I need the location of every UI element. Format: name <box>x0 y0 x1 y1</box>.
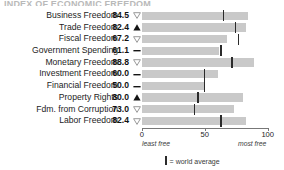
chart-rows: Business Freedom84.5Trade Freedom82.4Fis… <box>0 10 284 127</box>
score-bar <box>142 47 219 55</box>
row-plot <box>142 10 268 22</box>
row-plot <box>142 68 268 80</box>
world-average-marker <box>238 34 240 45</box>
score-bar <box>142 23 246 31</box>
row-score: 50.0 <box>107 80 129 92</box>
row-score: 73.0 <box>107 104 129 116</box>
chart-row: Property Rights80.0 <box>0 92 284 104</box>
world-average-marker <box>223 10 225 21</box>
trend-up-icon <box>133 24 141 31</box>
row-plot <box>142 80 268 92</box>
trend-down-icon <box>133 118 141 125</box>
trend-flat-icon <box>133 47 141 54</box>
row-plot <box>142 33 268 45</box>
row-trend-indicator <box>131 33 142 45</box>
score-bar <box>142 82 205 90</box>
row-trend-indicator <box>131 92 142 104</box>
chart-row: Fdm. from Corruption73.0 <box>0 104 284 116</box>
row-plot <box>142 22 268 34</box>
world-average-marker <box>235 22 237 33</box>
row-trend-indicator <box>131 10 142 22</box>
score-bar <box>142 70 218 78</box>
score-bar <box>142 105 234 113</box>
row-label: Fdm. from Corruption <box>36 104 118 116</box>
trend-flat-icon <box>133 71 141 78</box>
score-bar <box>142 35 227 43</box>
row-plot <box>142 45 268 57</box>
row-score: 82.4 <box>107 22 129 34</box>
chart-row: Financial Freedom50.0 <box>0 80 284 92</box>
score-bar <box>142 12 248 20</box>
trend-down-icon <box>133 12 141 19</box>
chart-row: Investment Freedom60.0 <box>0 68 284 80</box>
row-trend-indicator <box>131 104 142 116</box>
trend-down-icon <box>133 59 141 66</box>
axis-tick-label: 0 <box>140 131 144 139</box>
row-score: 80.0 <box>107 92 129 104</box>
chart-title-remnant: INDEX OF ECONOMIC FREEDOM <box>4 0 280 6</box>
row-score: 84.5 <box>107 10 129 22</box>
economic-freedom-chart: INDEX OF ECONOMIC FREEDOM Business Freed… <box>0 0 284 170</box>
row-plot <box>142 104 268 116</box>
world-average-marker <box>220 115 222 126</box>
row-label: Government Spending <box>32 45 118 57</box>
row-trend-indicator <box>131 115 142 127</box>
row-plot <box>142 115 268 127</box>
trend-down-icon <box>133 106 141 113</box>
row-score: 82.4 <box>107 115 129 127</box>
axis-tick-label: 100 <box>261 131 274 139</box>
score-bar <box>142 93 243 101</box>
axis-note-most-free: most free <box>238 140 266 148</box>
score-bar <box>142 58 254 66</box>
score-bar <box>142 117 246 125</box>
axis-tick-label: 50 <box>201 131 209 139</box>
row-plot <box>142 92 268 104</box>
world-average-marker <box>231 57 233 68</box>
legend-label: = world average <box>170 157 220 166</box>
row-score: 88.8 <box>107 57 129 69</box>
legend: = world average <box>165 150 220 162</box>
chart-row: Trade Freedom82.4 <box>0 22 284 34</box>
world-average-marker-icon <box>165 156 167 165</box>
chart-row: Business Freedom84.5 <box>0 10 284 22</box>
chart-row: Fiscal Freedom67.2 <box>0 33 284 45</box>
row-trend-indicator <box>131 68 142 80</box>
row-trend-indicator <box>131 57 142 69</box>
world-average-marker <box>220 45 222 56</box>
trend-down-icon <box>133 36 141 43</box>
chart-row: Government Spending61.1 <box>0 45 284 57</box>
chart-row: Labor Freedom82.4 <box>0 115 284 127</box>
row-score: 60.0 <box>107 68 129 80</box>
row-score: 61.1 <box>107 45 129 57</box>
row-plot <box>142 57 268 69</box>
world-average-marker <box>194 104 196 115</box>
row-trend-indicator <box>131 80 142 92</box>
trend-up-icon <box>133 94 141 101</box>
row-trend-indicator <box>131 22 142 34</box>
axis-note-least-free: least free <box>142 140 170 148</box>
world-average-marker <box>204 69 206 80</box>
row-score: 67.2 <box>107 33 129 45</box>
world-average-marker <box>197 92 199 103</box>
row-trend-indicator <box>131 45 142 57</box>
world-average-marker <box>204 80 206 91</box>
chart-row: Monetary Freedom88.8 <box>0 57 284 69</box>
trend-flat-icon <box>133 83 141 90</box>
